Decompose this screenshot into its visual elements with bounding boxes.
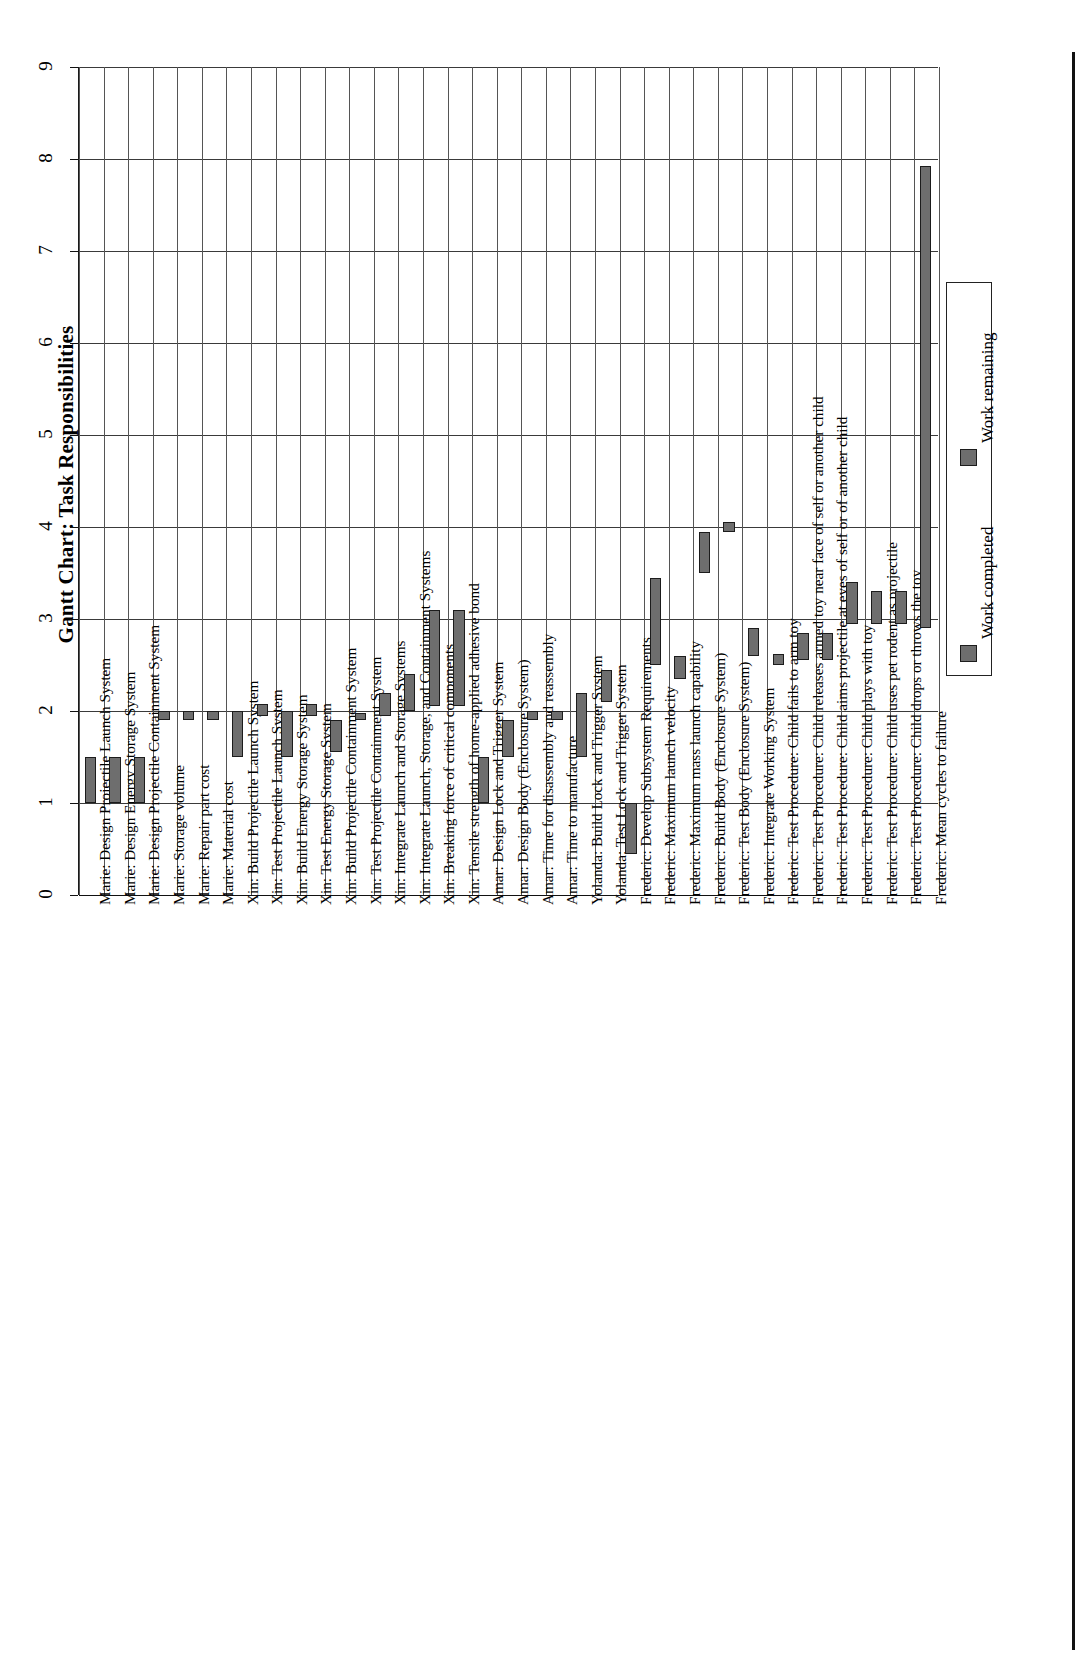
category-label: Amar: Design Lock and Trigger System: [489, 662, 507, 905]
gantt-bar[interactable]: [158, 711, 169, 720]
value-tick-label: 5: [35, 414, 57, 454]
gantt-bar[interactable]: [674, 656, 685, 679]
category-label: Yolanda: Test Lock and Trigger System: [612, 664, 630, 905]
value-tick-mark: [70, 527, 78, 528]
legend-label: Work remaining: [978, 263, 998, 443]
category-label: Xin: Build Projectile Containment System: [342, 648, 360, 905]
category-label: Frederic: Mean cycles to failure: [932, 711, 950, 905]
legend-swatch: [960, 645, 977, 662]
value-tick-mark: [70, 343, 78, 344]
gantt-bar[interactable]: [85, 757, 96, 803]
value-gridline: [79, 159, 938, 160]
gantt-bar[interactable]: [478, 757, 489, 803]
gantt-bar[interactable]: [379, 693, 390, 716]
value-tick-label: 0: [35, 874, 57, 914]
value-tick-mark: [70, 159, 78, 160]
value-tick-label: 2: [35, 690, 57, 730]
value-gridline: [79, 67, 938, 68]
value-tick-mark: [70, 251, 78, 252]
legend-swatch: [960, 449, 977, 466]
category-label: Xin: Tensile strength of home-applied ad…: [465, 583, 483, 905]
gantt-bar[interactable]: [330, 720, 341, 752]
category-label: Frederic: Test Procedure: Child aims pro…: [833, 417, 851, 905]
category-label: Frederic: Develop Subsystem Requirements: [637, 637, 655, 905]
category-gridline: [79, 67, 80, 895]
gantt-bar[interactable]: [207, 711, 218, 720]
value-tick-label: 3: [35, 598, 57, 638]
gantt-bar[interactable]: [822, 633, 833, 661]
legend: Work completedWork remaining: [946, 282, 992, 676]
gantt-bar[interactable]: [183, 711, 194, 720]
gantt-bar[interactable]: [576, 693, 587, 757]
gantt-bar[interactable]: [920, 166, 931, 628]
value-tick-mark: [70, 435, 78, 436]
gantt-bar[interactable]: [109, 757, 120, 803]
gantt-bar[interactable]: [232, 711, 243, 757]
value-tick-mark: [70, 67, 78, 68]
category-label: Frederic: Maximum launch velocity: [661, 686, 679, 905]
category-label: Xin: Build Energy Storage System: [293, 694, 311, 905]
value-tick-label: 8: [35, 138, 57, 178]
gantt-bar[interactable]: [748, 628, 759, 656]
category-label: Marie: Repair part cost: [195, 765, 213, 905]
value-tick-label: 9: [35, 46, 57, 86]
value-tick-label: 7: [35, 230, 57, 270]
category-label: Xin: Integrate Launch, Storage, and Cont…: [416, 551, 434, 905]
value-tick-label: 6: [35, 322, 57, 362]
gantt-bar[interactable]: [871, 591, 882, 623]
value-gridline: [79, 343, 938, 344]
gantt-bar[interactable]: [895, 591, 906, 623]
gantt-bar[interactable]: [404, 674, 415, 711]
value-tick-label: 1: [35, 782, 57, 822]
category-gridline: [226, 67, 227, 895]
gantt-bar[interactable]: [797, 633, 808, 661]
category-label: Amar: Design Body (Enclosure System): [514, 660, 532, 906]
gantt-bar[interactable]: [773, 654, 784, 665]
gantt-bar[interactable]: [355, 713, 366, 720]
category-label: Amar: Time for disassembly and reassembl…: [539, 634, 557, 905]
category-label: Frederic: Test Procedure: Child fails to…: [784, 618, 802, 905]
legend-label: Work completed: [978, 459, 998, 639]
category-label: Frederic: Test Body (Enclosure System): [735, 662, 753, 905]
gantt-bar[interactable]: [601, 670, 612, 702]
category-label: Frederic: Maximum mass launch capability: [686, 641, 704, 905]
value-tick-mark: [70, 711, 78, 712]
value-tick-label: 4: [35, 506, 57, 546]
category-label: Amar: Time to manufacture: [563, 736, 581, 905]
gantt-bar[interactable]: [527, 711, 538, 720]
value-gridline: [79, 251, 938, 252]
value-tick-mark: [70, 895, 78, 896]
value-tick-mark: [70, 803, 78, 804]
category-label: Marie: Material cost: [219, 781, 237, 905]
gantt-bar[interactable]: [306, 704, 317, 716]
gantt-bar[interactable]: [723, 522, 734, 531]
page-title: Gantt Chart: Task Responsibilities: [54, 135, 79, 835]
gantt-bar[interactable]: [134, 757, 145, 803]
value-tick-mark: [70, 619, 78, 620]
gantt-bar[interactable]: [257, 704, 268, 716]
category-label: Frederic: Integrate Working System: [760, 688, 778, 905]
page-edge-rule: [1072, 52, 1075, 1650]
category-label: Frederic: Build Body (Enclosure System): [711, 653, 729, 905]
gantt-bar[interactable]: [502, 720, 513, 757]
category-label: Frederic: Test Procedure: Child plays wi…: [858, 625, 876, 905]
gantt-bar[interactable]: [429, 610, 440, 707]
category-label: Marie: Storage volume: [170, 765, 188, 905]
category-label: Marie: Design Projectile Containment Sys…: [145, 625, 163, 905]
gantt-bar[interactable]: [699, 532, 710, 573]
gantt-bar[interactable]: [625, 803, 636, 854]
gantt-bar[interactable]: [846, 582, 857, 623]
gantt-bar[interactable]: [650, 578, 661, 665]
gantt-bar[interactable]: [551, 711, 562, 720]
gantt-chart-page: Gantt Chart: Task Responsibilities 01234…: [0, 0, 1081, 1672]
gantt-bar[interactable]: [453, 610, 464, 707]
gantt-bar[interactable]: [281, 711, 292, 757]
